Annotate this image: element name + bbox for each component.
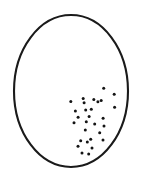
scatter-dot	[82, 97, 85, 100]
scatter-dot	[77, 145, 80, 148]
scatter-dot	[83, 101, 86, 104]
scatter-dot	[86, 141, 89, 144]
scatter-dot	[96, 100, 99, 103]
scatter-dot	[88, 115, 91, 118]
scatter-dot	[81, 152, 84, 155]
scatter-dot	[77, 116, 80, 119]
figure-canvas	[0, 0, 144, 185]
scatter-dot	[100, 99, 103, 102]
scatter-dot	[73, 121, 76, 124]
scatter-dot	[113, 93, 116, 96]
scatter-dot	[87, 153, 90, 156]
scatter-dot	[102, 139, 105, 142]
scatter-dot	[69, 100, 72, 103]
scatter-dot	[102, 87, 105, 90]
scatter-dot	[74, 110, 77, 113]
scatter-dot	[113, 106, 116, 109]
scatter-in-oval-figure	[0, 0, 144, 185]
scatter-dot	[79, 139, 82, 142]
oval-outline	[14, 15, 128, 167]
scatter-dot	[93, 123, 96, 126]
scatter-dot	[103, 125, 106, 128]
scatter-dot	[90, 108, 93, 111]
scatter-dot	[98, 131, 101, 134]
scatter-dot	[85, 120, 88, 123]
scatter-dot	[92, 98, 95, 101]
scatter-dot	[89, 138, 92, 141]
scatter-dot	[84, 129, 87, 132]
scatter-dot	[102, 117, 105, 120]
scatter-dot	[91, 147, 94, 150]
scatter-dot	[84, 108, 87, 111]
